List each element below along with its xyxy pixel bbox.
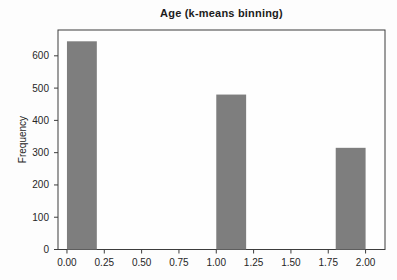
histogram-figure: Age (k-means binning) Frequency 01002003… <box>0 0 397 280</box>
y-tick-label-2: 200 <box>32 179 49 190</box>
y-tick-label-5: 500 <box>32 83 49 94</box>
histogram-bar-1 <box>216 95 246 250</box>
x-tick-label-5: 1.25 <box>244 257 264 268</box>
plot-area: 01002003004005006000.000.250.500.751.001… <box>0 0 397 280</box>
y-tick-label-1: 100 <box>32 212 49 223</box>
histogram-bar-0 <box>67 41 97 249</box>
x-tick-label-3: 0.75 <box>169 257 189 268</box>
x-tick-label-1: 0.25 <box>95 257 115 268</box>
y-tick-label-0: 0 <box>43 244 49 255</box>
y-axis-label: Frequency <box>16 30 29 250</box>
x-tick-label-2: 0.50 <box>132 257 152 268</box>
y-tick-label-3: 300 <box>32 147 49 158</box>
x-tick-label-4: 1.00 <box>207 257 227 268</box>
histogram-bar-2 <box>336 148 366 250</box>
x-tick-label-8: 2.00 <box>356 257 376 268</box>
x-tick-label-7: 1.75 <box>319 257 339 268</box>
chart-title: Age (k-means binning) <box>58 7 385 19</box>
y-tick-label-6: 600 <box>32 50 49 61</box>
x-tick-label-0: 0.00 <box>57 257 77 268</box>
x-tick-label-6: 1.50 <box>281 257 301 268</box>
y-tick-label-4: 400 <box>32 115 49 126</box>
